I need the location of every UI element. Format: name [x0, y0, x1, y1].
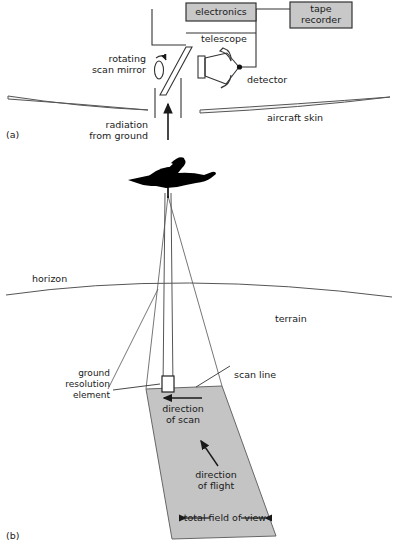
rotating-scan-mirror-label-line2: scan mirror	[92, 64, 146, 75]
panel-b-id: (b)	[6, 530, 19, 541]
panel-a-id: (a)	[6, 129, 19, 140]
aircraft-silhouette	[128, 157, 216, 188]
ground-resolution-element-box	[162, 376, 174, 392]
leader-scan-line	[196, 366, 230, 387]
total-fov-label: total field of view	[184, 512, 267, 523]
telescope-lower-mirror	[221, 75, 231, 88]
ground-resolution-label-line1: ground	[78, 368, 110, 378]
telescope-label: telescope	[201, 33, 247, 44]
panel-a-group: electronics tape recorder telescope	[6, 2, 390, 141]
detector-label: detector	[247, 74, 287, 85]
instantaneous-beam	[163, 193, 173, 389]
wire-electronics-to-scanner	[152, 9, 186, 45]
rotation-axis-ellipse	[155, 61, 164, 79]
aircraft-skin-right	[200, 97, 390, 113]
direction-of-flight-label-line2: of flight	[198, 480, 235, 491]
diagram-canvas: electronics tape recorder telescope	[0, 0, 398, 548]
tape-recorder-label-line1: tape	[310, 3, 332, 14]
telescope-assembly	[198, 48, 242, 88]
fov-outer-left	[108, 289, 158, 389]
scanner-diagram-figure: electronics tape recorder telescope	[0, 0, 398, 548]
direction-of-scan-label-line1: direction	[162, 403, 204, 414]
aircraft-skin	[8, 96, 390, 113]
rotating-scan-mirror-label-line1: rotating	[109, 53, 146, 64]
radiation-label-line1: radiation	[106, 119, 148, 130]
radiation-label-line2: from ground	[89, 130, 148, 141]
direction-of-flight-label-line1: direction	[195, 469, 237, 480]
tape-recorder-box: tape recorder	[290, 2, 352, 28]
scan-line-label: scan line	[234, 369, 276, 380]
detector-dot	[237, 64, 242, 69]
panel-b-group: horizon terrain ground resolution elemen…	[6, 157, 392, 541]
terrain-label: terrain	[275, 313, 307, 324]
horizon-curve	[6, 283, 392, 297]
ground-resolution-label-line3: element	[73, 390, 111, 400]
aircraft-skin-left	[8, 96, 148, 110]
fov-right-edge	[168, 196, 222, 386]
aircraft-skin-label: aircraft skin	[267, 112, 323, 123]
ground-resolution-label-line2: resolution	[65, 379, 110, 389]
electronics-label: electronics	[195, 6, 247, 17]
rotating-scan-mirror	[155, 47, 193, 95]
telescope-rays	[205, 53, 239, 84]
tape-recorder-label-line2: recorder	[301, 14, 341, 25]
total-fov-dimension: total field of view	[184, 512, 267, 523]
rotation-arrow	[156, 56, 166, 60]
direction-of-scan-label-line2: of scan	[166, 414, 200, 425]
electronics-box: electronics	[186, 3, 256, 21]
horizon-label: horizon	[32, 273, 67, 284]
